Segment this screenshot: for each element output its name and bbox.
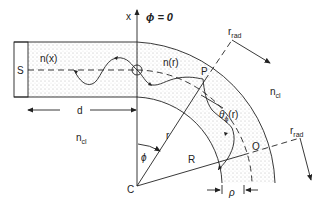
axis-x-label: x: [126, 11, 131, 22]
point-p-label: P: [201, 66, 208, 77]
r-rad-arrow-top: [232, 40, 270, 63]
straight-core: [28, 42, 138, 97]
rho-label: ρ: [228, 187, 235, 198]
n-straight-label: n(x): [40, 53, 57, 64]
phi-zero-label: ϕ = 0: [146, 11, 174, 23]
point-o-label: O: [252, 141, 260, 152]
d-label: d: [77, 105, 83, 116]
radius-R-label: R: [188, 154, 195, 165]
phi-angle-arc: [138, 144, 160, 151]
n-bent-label: n(r): [163, 57, 179, 68]
n-cl-left-label: ncl: [76, 132, 87, 145]
source-label: S: [17, 65, 24, 76]
r-rad-top-label: rrad: [228, 26, 242, 39]
r-rad-bottom-label: rrad: [290, 125, 304, 138]
r-rad-arrow-bottom: [300, 138, 311, 180]
phi-angle-label: ϕ: [141, 152, 147, 163]
n-cl-right-label: ncl: [270, 86, 281, 99]
bent-fiber-diagram: S x ϕ = 0 n(x) n(r) P rrad ncl d ncl r R…: [0, 0, 325, 205]
center-label: C: [127, 184, 134, 195]
